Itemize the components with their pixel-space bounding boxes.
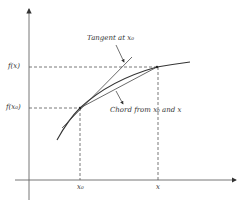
label-fx0: f(x₀) [6,104,21,111]
point-x [156,66,158,68]
tangent-line [62,57,132,128]
tangent-pointer [116,45,124,62]
chord-pointer [116,91,123,104]
label-x: x [156,184,160,191]
label-x0: x₀ [77,184,84,191]
diagram-svg [0,0,248,210]
label-fx: f(x) [8,63,20,70]
point-x0 [79,107,81,109]
chord-line [80,67,157,108]
diagram-canvas: f(x) f(x₀) x₀ x Tangent at x₀ Chord from… [0,0,248,210]
annotation-tangent: Tangent at x₀ [87,35,134,42]
annotation-chord: Chord from x₀ and x [110,107,181,114]
function-curve [57,62,190,140]
